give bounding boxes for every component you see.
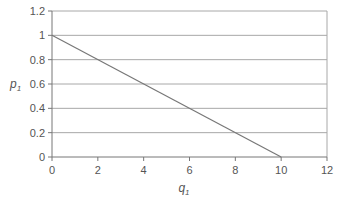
- y-tick-label: 1.2: [30, 5, 45, 17]
- series-line: [52, 35, 281, 157]
- x-tick-label: 2: [95, 164, 101, 176]
- y-tick-label: 0: [39, 151, 45, 163]
- x-tick-label: 0: [49, 164, 55, 176]
- y-tick-label: 0.8: [30, 54, 45, 66]
- x-tick-label: 4: [141, 164, 147, 176]
- y-tick-label: 0.6: [30, 78, 45, 90]
- axes: [48, 11, 327, 161]
- y-tick-label: 0.4: [30, 102, 45, 114]
- x-axis-label: q1: [178, 181, 189, 197]
- y-tick-label: 1: [39, 29, 45, 41]
- x-tick-label: 8: [232, 164, 238, 176]
- x-tick-label: 12: [321, 164, 333, 176]
- data-series: [52, 35, 281, 157]
- x-tick-labels: 024681012: [49, 164, 333, 176]
- y-tick-labels: 00.20.40.60.811.2: [30, 5, 45, 163]
- grid-lines: [52, 11, 327, 133]
- x-tick-label: 10: [275, 164, 287, 176]
- chart: 024681012 00.20.40.60.811.2 q1 p1: [0, 0, 342, 201]
- y-axis-label: p1: [9, 77, 21, 93]
- x-tick-label: 6: [186, 164, 192, 176]
- y-tick-label: 0.2: [30, 127, 45, 139]
